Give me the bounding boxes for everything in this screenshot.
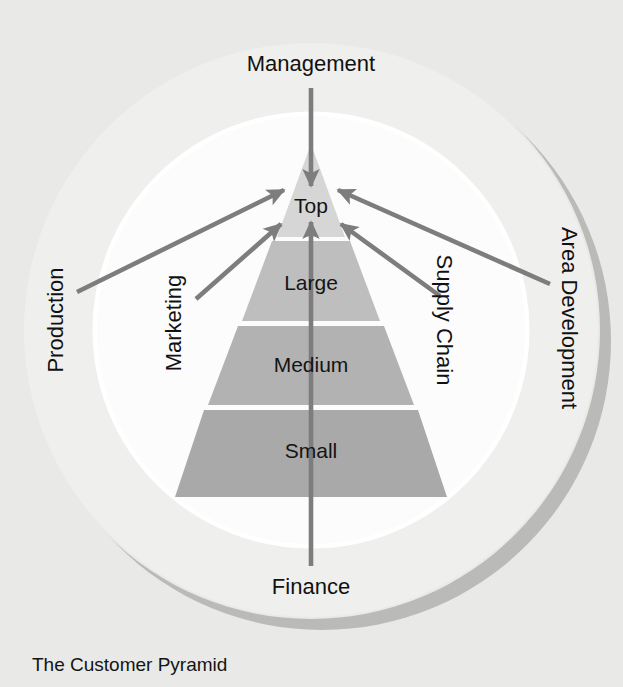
department-label-supply-chain: Supply Chain: [432, 255, 457, 386]
pyramid-tier-label-medium: Medium: [274, 353, 349, 376]
diagram-canvas: Top Large Medium Small Management Financ…: [0, 0, 623, 687]
department-label-production: Production: [43, 267, 68, 372]
department-label-management: Management: [247, 51, 375, 76]
pyramid-tier-label-top: Top: [294, 194, 328, 217]
diagram-caption: The Customer Pyramid: [32, 654, 227, 675]
pyramid-tier-label-large: Large: [284, 271, 338, 294]
department-label-marketing: Marketing: [161, 275, 186, 372]
department-label-area-development: Area Development: [557, 227, 582, 409]
pyramid-tier-label-small: Small: [285, 439, 338, 462]
customer-pyramid-diagram: Top Large Medium Small Management Financ…: [0, 0, 623, 687]
department-label-finance: Finance: [272, 574, 350, 599]
